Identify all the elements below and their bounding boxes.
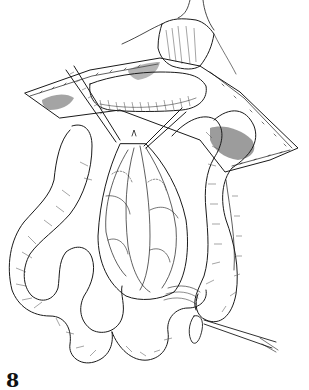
cavity-shading [42,62,254,160]
mesentery [98,144,188,299]
left-bowel-loops [9,125,206,363]
incision-frame [25,58,298,172]
surgical-illustration [0,0,309,390]
figure-number-label: 8 [6,370,19,390]
retracted-tissue-flap [122,0,236,74]
clamp-lower-right [189,316,278,352]
upper-bowel [90,72,207,112]
vessel-stump [132,130,136,136]
